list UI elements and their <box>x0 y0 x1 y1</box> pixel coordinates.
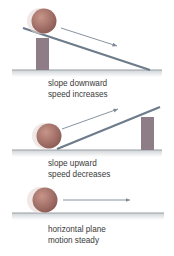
support-block <box>141 117 154 150</box>
caption-line-2: speed increases <box>48 89 108 100</box>
panel-horizontal <box>12 187 164 220</box>
ball <box>33 188 58 213</box>
caption-horizontal: horizontal plane motion steady <box>48 224 106 246</box>
caption-line-1: horizontal plane <box>48 224 106 235</box>
caption-line-1: slope downward <box>48 78 108 89</box>
panel-upward <box>12 107 162 157</box>
ground-shadow <box>12 70 162 77</box>
caption-downward: slope downward speed increases <box>48 78 108 100</box>
caption-line-2: motion steady <box>48 235 106 246</box>
ball <box>37 124 62 149</box>
caption-line-2: speed decreases <box>48 169 110 180</box>
support-block <box>36 38 49 70</box>
direction-arrow <box>62 109 118 129</box>
caption-line-1: slope upward <box>48 158 110 169</box>
ground-shadow <box>12 213 164 220</box>
caption-upward: slope upward speed decreases <box>48 158 110 180</box>
ball <box>32 9 57 34</box>
ground-shadow <box>12 150 162 157</box>
motion-diagram <box>0 0 174 256</box>
panel-downward <box>12 8 162 77</box>
